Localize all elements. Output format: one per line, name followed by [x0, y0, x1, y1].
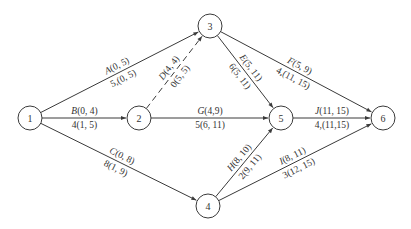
duration-label: 4(1, 5) — [72, 120, 97, 131]
duration-label: 4,(11,15) — [315, 120, 349, 131]
activity-label: G(4,9) — [197, 106, 222, 117]
activity-label: B(0, 4) — [71, 106, 97, 117]
edge-label-h: H(8, 10)2(9, 11) — [224, 142, 264, 184]
svg-text:6: 6 — [381, 113, 386, 124]
node-4: 4 — [196, 194, 220, 218]
node-6: 6 — [371, 106, 395, 130]
edge-e — [217, 35, 273, 107]
edge-h — [216, 128, 273, 197]
svg-text:4: 4 — [206, 201, 211, 212]
svg-text:3: 3 — [208, 21, 213, 32]
edge-a — [41, 32, 199, 113]
node-3: 3 — [198, 14, 222, 38]
svg-text:2: 2 — [137, 113, 142, 124]
edge-d — [146, 36, 202, 108]
svg-text:1: 1 — [28, 113, 33, 124]
edge-label-e: E(5, 11)6(5, 11) — [225, 52, 264, 92]
activity-label: J(11, 15) — [315, 106, 349, 117]
node-1: 1 — [18, 106, 42, 130]
node-2: 2 — [127, 106, 151, 130]
network-diagram: A(0, 5)5,(0, 5)B(0, 4)4(1, 5)C(0, 8)8(1,… — [0, 0, 411, 229]
svg-text:5: 5 — [279, 113, 284, 124]
edge-c — [41, 123, 197, 200]
duration-label: 5(6, 11) — [195, 120, 225, 131]
node-5: 5 — [269, 106, 293, 130]
